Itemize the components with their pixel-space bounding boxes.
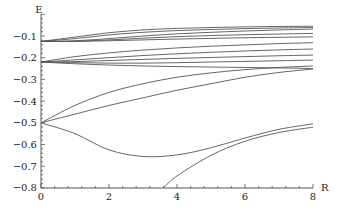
y-tick-label: −0.1 <box>13 31 37 42</box>
y-axis-title: E <box>35 4 42 15</box>
y-tick-label: −0.7 <box>13 161 37 172</box>
y-tick-label: −0.2 <box>13 52 37 63</box>
energy-curves-chart: 02468−0.1−0.2−0.3−0.4−0.5−0.6−0.7−0.8RE <box>0 0 343 211</box>
series-curve-13 <box>41 123 313 157</box>
y-tick-label: −0.6 <box>13 139 37 150</box>
x-tick-label: 6 <box>242 191 248 202</box>
x-axis-title: R <box>321 182 329 193</box>
y-tick-label: −0.5 <box>13 117 37 128</box>
y-tick-label: −0.3 <box>13 74 37 85</box>
series-curve-14 <box>163 127 313 188</box>
x-tick-label: 4 <box>174 191 180 202</box>
x-tick-label: 0 <box>38 191 44 202</box>
data-curves <box>41 26 313 188</box>
x-tick-label: 2 <box>106 191 112 202</box>
x-tick-label: 8 <box>310 191 316 202</box>
y-tick-label: −0.4 <box>13 96 37 107</box>
y-tick-label: −0.8 <box>13 182 37 193</box>
series-curve-11 <box>41 66 313 123</box>
